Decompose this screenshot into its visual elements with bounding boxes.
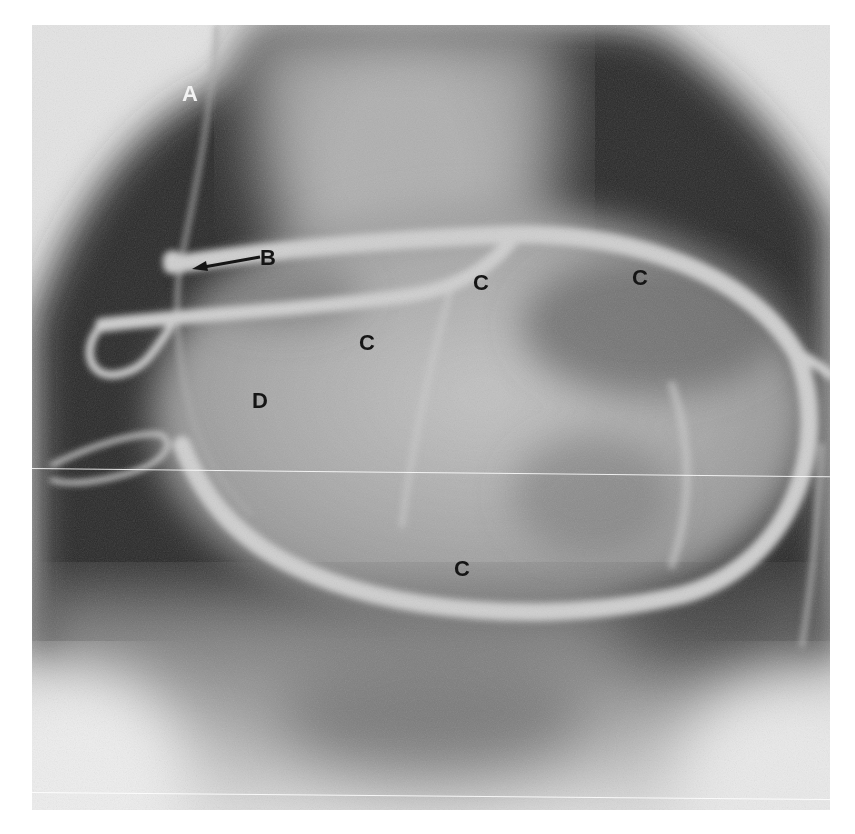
- label-a: A: [182, 83, 198, 105]
- angiogram-figure: A B C C C C D: [32, 25, 830, 810]
- label-c-middle-left: C: [359, 332, 375, 354]
- label-c-bottom: C: [454, 558, 470, 580]
- label-c-upper-middle: C: [473, 272, 489, 294]
- arrow-icon: [190, 253, 270, 273]
- xray-image: [32, 25, 830, 810]
- label-d: D: [252, 390, 268, 412]
- label-c-upper-right: C: [632, 267, 648, 289]
